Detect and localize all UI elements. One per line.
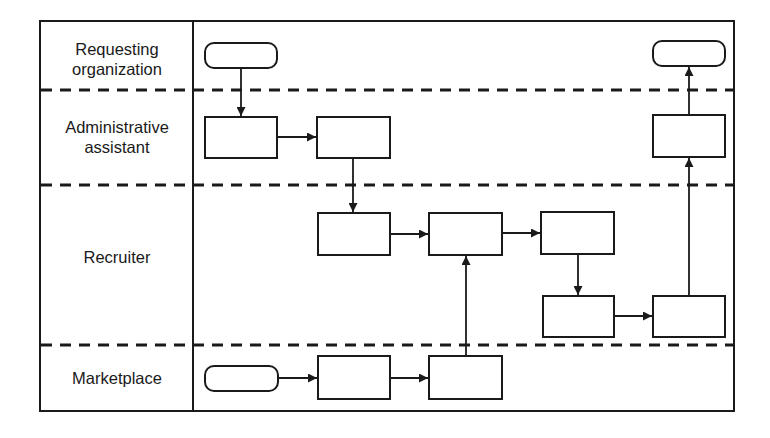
admin-step-2-box (317, 117, 390, 158)
lane-label-recruiter: Recruiter (41, 245, 193, 269)
lane-label-line: Requesting (75, 39, 158, 59)
lane-label-line: Administrative (65, 117, 169, 137)
recruiter-step-3-box (541, 212, 614, 254)
end-terminator (653, 41, 725, 66)
admin-step-1-box (205, 117, 277, 158)
lane-label-line: organization (72, 59, 162, 79)
admin-step-3-box (653, 115, 725, 157)
lane-label-line: Recruiter (84, 247, 151, 267)
lane-label-administrative-assistant: Administrative assistant (41, 110, 193, 164)
marketplace-step-1-box (318, 356, 390, 399)
marketplace-start-terminator (205, 366, 278, 391)
lane-label-line: Marketplace (72, 368, 162, 388)
lane-label-marketplace: Marketplace (41, 366, 193, 390)
recruiter-step-2-box (429, 213, 502, 255)
lane-label-line: assistant (84, 137, 149, 157)
recruiter-step-5-box (653, 296, 725, 337)
lane-label-requesting-organization: Requesting organization (41, 32, 193, 86)
start-terminator (205, 43, 277, 68)
marketplace-step-2-box (429, 356, 502, 399)
recruiter-step-4-box (543, 296, 614, 337)
recruiter-step-1-box (318, 213, 390, 255)
